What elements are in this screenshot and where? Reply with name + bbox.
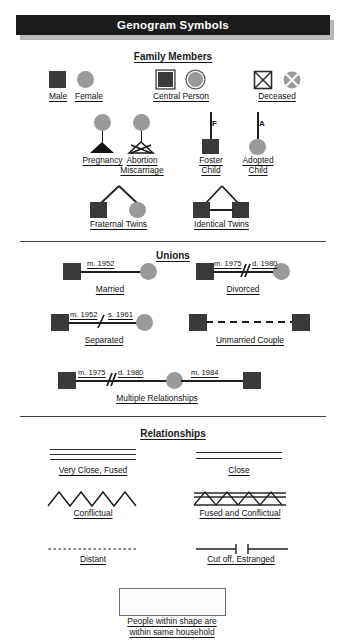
section-heading-relationships: Relationships xyxy=(0,428,346,439)
multiple-rel-line-first xyxy=(75,380,169,382)
label-separated: Separated xyxy=(72,335,136,346)
multiple-rel-male-left-symbol xyxy=(58,372,76,389)
male-square-symbol xyxy=(49,71,66,88)
unmarried-partner-right-symbol xyxy=(292,314,310,331)
foster-mark-f: F xyxy=(212,119,224,130)
section-divider-unions xyxy=(20,241,326,242)
title-banner: Genogram Symbols xyxy=(16,15,330,37)
multiple-rel-date-second: d. 1980 xyxy=(118,368,143,377)
multiple-rel-line-second xyxy=(181,380,245,382)
deceased-male-symbol xyxy=(253,70,273,90)
abortion-circle-symbol xyxy=(133,114,150,131)
close-line-1 xyxy=(196,452,282,453)
central-person-female-symbol xyxy=(188,72,203,87)
page-title: Genogram Symbols xyxy=(117,19,229,31)
married-date: m. 1952 xyxy=(87,259,114,268)
label-household-line-1: People within shape are xyxy=(100,616,244,627)
label-miscarriage: Miscarriage xyxy=(104,165,180,176)
label-divorced: Divorced xyxy=(212,284,274,295)
abortion-triangle-symbol xyxy=(128,142,154,154)
label-distant: Distant xyxy=(63,554,123,565)
label-household-line-2: within same household xyxy=(100,627,244,638)
label-female: Female xyxy=(68,91,110,102)
very-close-line-2 xyxy=(50,454,136,455)
distant-dotted-line xyxy=(49,546,137,552)
label-foster-child: Child xyxy=(191,165,231,176)
separated-female-symbol xyxy=(136,314,153,331)
central-person-male-symbol xyxy=(158,72,173,87)
title-bar: Genogram Symbols xyxy=(16,15,330,35)
conflictual-zigzag-line xyxy=(48,490,138,508)
label-foster: Foster xyxy=(188,155,234,166)
label-very-close-fused: Very Close, Fused xyxy=(45,465,141,476)
label-fraternal-twins: Fraternal Twins xyxy=(74,219,163,230)
deceased-female-symbol xyxy=(282,70,302,90)
identical-twin-square-left xyxy=(193,202,210,218)
identical-twins-link-bar xyxy=(209,209,233,211)
label-multiple-relationships: Multiple Relationships xyxy=(92,393,222,404)
multiple-rel-date-first: m. 1975 xyxy=(78,368,105,377)
unmarried-couple-dashed-line xyxy=(206,316,294,328)
separated-separation-date: s. 1961 xyxy=(108,310,133,319)
multiple-rel-divorce-slash-mark xyxy=(104,372,118,388)
section-divider-relationships xyxy=(20,416,326,417)
female-circle-symbol xyxy=(77,71,94,88)
divorced-divorce-date: d. 1980 xyxy=(252,259,277,268)
married-female-symbol xyxy=(140,263,157,280)
fraternal-twin-circle-symbol xyxy=(129,202,146,218)
label-fused-and-conflictual: Fused and Conflictual xyxy=(188,508,292,519)
label-central-person: Central Person xyxy=(139,91,223,102)
pregnancy-circle-symbol xyxy=(94,114,111,131)
multiple-rel-date-third: m. 1984 xyxy=(191,368,218,377)
unmarried-partner-left-symbol xyxy=(189,314,207,331)
fraternal-twin-square-symbol xyxy=(90,202,107,218)
foster-child-square-symbol xyxy=(202,139,219,154)
label-abortion: Abortion xyxy=(110,155,174,166)
label-adopted-child: Child xyxy=(238,165,278,176)
very-close-line-1 xyxy=(50,449,136,450)
household-boundary-box xyxy=(119,588,226,616)
label-deceased: Deceased xyxy=(245,91,309,102)
very-close-line-3 xyxy=(50,459,136,460)
fused-conflictual-symbol xyxy=(194,491,286,508)
label-unmarried-couple: Unmarried Couple xyxy=(200,335,300,346)
separated-marriage-date: m. 1952 xyxy=(70,310,97,319)
section-heading-unions: Unions xyxy=(0,250,346,261)
separated-male-symbol xyxy=(51,314,69,331)
divorced-marriage-date: m. 1975 xyxy=(214,259,241,268)
married-male-symbol xyxy=(63,263,81,280)
label-married: Married xyxy=(80,284,140,295)
label-cut-off-estranged: Cut off, Estranged xyxy=(189,554,293,565)
genogram-reference-sheet: Genogram Symbols Family Members Male Fem… xyxy=(0,0,346,641)
close-line-2 xyxy=(196,458,282,459)
adopted-child-circle-symbol xyxy=(249,139,266,155)
label-adopted: Adopted xyxy=(233,155,283,166)
identical-twin-square-right xyxy=(232,202,249,218)
separation-single-slash-mark xyxy=(96,314,108,330)
label-close: Close xyxy=(212,465,266,476)
section-heading-family-members: Family Members xyxy=(0,51,346,62)
married-union-line xyxy=(80,271,142,273)
adopted-mark-a: A xyxy=(259,119,271,130)
pregnancy-triangle-symbol xyxy=(89,142,115,154)
label-conflictual: Conflictual xyxy=(58,508,128,519)
multiple-rel-male-right-symbol xyxy=(243,372,261,389)
divorced-male-symbol xyxy=(196,263,214,280)
label-identical-twins: Identical Twins xyxy=(178,219,265,230)
